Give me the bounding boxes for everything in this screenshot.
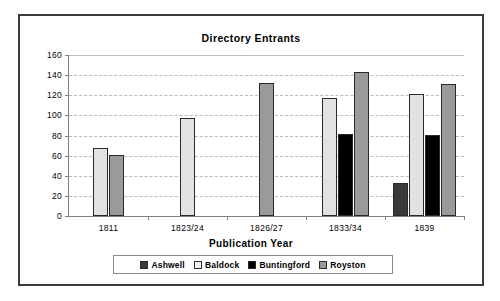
y-axis-tick-label: 80: [52, 131, 62, 141]
legend-swatch-icon: [248, 261, 256, 269]
bar-baldock-1811[interactable]: [93, 148, 108, 216]
x-axis-tick-mark: [227, 216, 228, 220]
bar-group: [148, 55, 227, 216]
x-axis-tick-mark: [306, 216, 307, 220]
chart-title: Directory Entrants: [20, 32, 482, 44]
legend-item-ashwell[interactable]: Ashwell: [140, 260, 185, 270]
y-axis-tick-label: 160: [47, 50, 62, 60]
x-axis-tick-mark: [385, 216, 386, 220]
chart-legend: AshwellBaldockBuntingfordRoyston: [113, 255, 393, 274]
y-axis-tick-label: 140: [47, 70, 62, 80]
bar-buntingford-1833-34[interactable]: [338, 134, 353, 217]
y-axis-tick-mark: [65, 216, 69, 217]
bar-royston-1833-34[interactable]: [354, 72, 369, 216]
bar-royston-1839[interactable]: [441, 84, 456, 216]
legend-label: Royston: [330, 260, 365, 270]
legend-label: Ashwell: [151, 260, 185, 270]
x-axis-tick-mark: [464, 216, 465, 220]
legend-swatch-icon: [319, 261, 327, 269]
bar-buntingford-1839[interactable]: [425, 135, 440, 217]
x-axis-title: Publication Year: [20, 238, 482, 249]
chart-frame: Directory Entrants 160140120100806040200…: [18, 14, 484, 286]
bar-royston-1826-27[interactable]: [259, 83, 274, 216]
legend-item-buntingford[interactable]: Buntingford: [248, 260, 310, 270]
legend-label: Baldock: [205, 260, 239, 270]
x-axis-tick-label: 1826/27: [250, 223, 283, 233]
legend-label: Buntingford: [259, 260, 310, 270]
legend-item-baldock[interactable]: Baldock: [194, 260, 239, 270]
y-axis-tick-label: 100: [47, 110, 62, 120]
y-axis-tick-label: 20: [52, 191, 62, 201]
bar-royston-1811[interactable]: [109, 155, 124, 216]
bar-group: [306, 55, 385, 216]
x-axis-tick-label: 1823/24: [171, 223, 204, 233]
legend-item-royston[interactable]: Royston: [319, 260, 365, 270]
y-axis-tick-label: 60: [52, 151, 62, 161]
x-axis-tick-label: 1811: [99, 223, 118, 233]
y-axis-tick-label: 0: [57, 211, 62, 221]
x-axis-tick-label: 1839: [414, 223, 434, 233]
x-axis-tick-label: 1833/34: [329, 223, 362, 233]
legend-swatch-icon: [140, 261, 148, 269]
plot-area: 160140120100806040200 18111823/241826/27…: [68, 55, 464, 217]
bar-ashwell-1839[interactable]: [393, 183, 408, 216]
bar-baldock-1839[interactable]: [409, 94, 424, 216]
bar-baldock-1823-24[interactable]: [180, 118, 195, 216]
y-axis-tick-label: 120: [47, 90, 62, 100]
x-axis-tick-mark: [148, 216, 149, 220]
legend-swatch-icon: [194, 261, 202, 269]
bar-group: [385, 55, 464, 216]
bar-group: [69, 55, 148, 216]
bar-baldock-1833-34[interactable]: [322, 98, 337, 216]
y-axis-tick-label: 40: [52, 171, 62, 181]
bars-layer: [69, 55, 464, 216]
bar-group: [227, 55, 306, 216]
